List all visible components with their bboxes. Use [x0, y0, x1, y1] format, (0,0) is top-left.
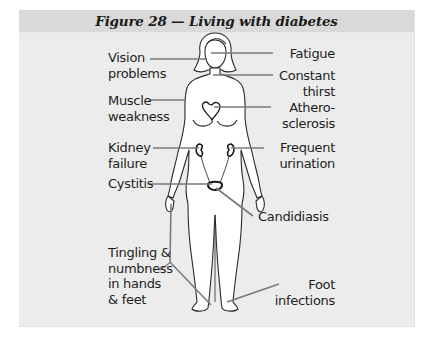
label-line: problems — [108, 66, 166, 82]
label-line: numbness — [108, 261, 173, 277]
label-kidney-failure: Kidney failure — [108, 140, 151, 171]
label-line: failure — [108, 156, 151, 172]
label-line: Vision — [108, 50, 166, 66]
label-atherosclerosis: Athero- sclerosis — [282, 100, 335, 131]
label-line: sclerosis — [282, 116, 335, 132]
label-line: Constant — [279, 68, 335, 84]
label-cystitis: Cystitis — [108, 176, 153, 192]
label-line: Tingling & — [108, 245, 173, 261]
kidney-left-icon — [196, 144, 202, 156]
label-frequent-urination: Frequent urination — [279, 140, 335, 171]
label-muscle-weakness: Muscle weakness — [108, 93, 170, 124]
label-line: Cystitis — [108, 176, 153, 192]
bladder-icon — [208, 182, 222, 190]
label-line: Frequent — [279, 140, 335, 156]
label-fatigue: Fatigue — [290, 46, 335, 62]
body-diagram — [0, 0, 425, 347]
label-line: & feet — [108, 292, 173, 308]
label-line: infections — [275, 293, 335, 309]
label-line: thirst — [279, 84, 335, 100]
label-line: Kidney — [108, 140, 151, 156]
label-line: urination — [279, 156, 335, 172]
label-line: Candidiasis — [258, 209, 329, 225]
label-line: Foot — [275, 277, 335, 293]
kidney-right-icon — [228, 144, 234, 156]
label-vision-problems: Vision problems — [108, 50, 166, 81]
label-foot-infections: Foot infections — [275, 277, 335, 308]
label-constant-thirst: Constant thirst — [279, 68, 335, 99]
label-line: Muscle — [108, 93, 170, 109]
label-line: Athero- — [282, 100, 335, 116]
label-tingling-numbness: Tingling & numbness in hands & feet — [108, 245, 173, 307]
label-line: Fatigue — [290, 46, 335, 62]
label-line: weakness — [108, 109, 170, 125]
label-candidiasis: Candidiasis — [258, 209, 329, 225]
label-line: in hands — [108, 276, 173, 292]
